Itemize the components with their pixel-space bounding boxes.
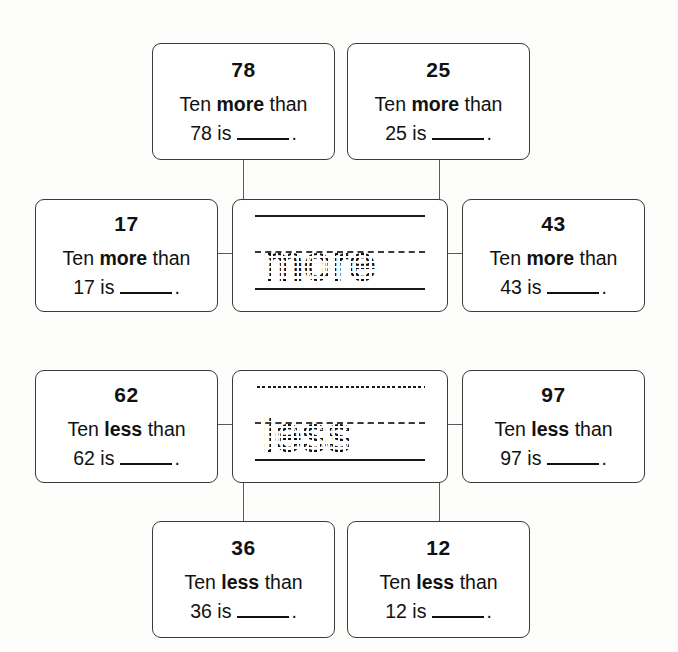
sentence-keyword: more	[216, 93, 264, 115]
problem-card-43[interactable]: 43 Ten more than 43 is .	[462, 199, 645, 312]
tracing-rules-more: more	[255, 200, 425, 311]
sentence-prefix: Ten	[375, 93, 412, 115]
tracing-card-more[interactable]: more	[232, 199, 448, 312]
problem-card-17[interactable]: 17 Ten more than 17 is .	[35, 199, 218, 312]
sentence-suffix: than	[574, 247, 617, 269]
answer-blank[interactable]	[547, 450, 599, 465]
card-number: 78	[231, 59, 255, 80]
sentence-period: .	[291, 122, 296, 144]
card-sentence-line1: Ten less than	[67, 418, 185, 440]
card-sentence-line2: 78 is .	[190, 122, 297, 144]
card-sentence-line1: Ten less than	[379, 571, 497, 593]
card-number: 97	[541, 384, 565, 405]
sentence-keyword: more	[99, 247, 147, 269]
worksheet-page: 78 Ten more than 78 is . 25 Ten more tha…	[0, 0, 678, 652]
sentence-prefix: Ten	[490, 247, 527, 269]
sentence-period: .	[601, 276, 606, 298]
sentence-suffix: than	[459, 93, 502, 115]
connector-78-to-more	[243, 159, 244, 201]
answer-blank[interactable]	[120, 279, 172, 294]
card-sentence-line2: 43 is .	[500, 276, 607, 298]
card-sentence-line2: 12 is .	[385, 600, 492, 622]
card-sentence-line1: Ten more than	[375, 93, 503, 115]
card-sentence-line2: 62 is .	[73, 447, 180, 469]
sentence-keyword: more	[526, 247, 574, 269]
answer-prompt: 62 is	[73, 447, 114, 469]
card-number: 43	[541, 213, 565, 234]
sentence-keyword: less	[416, 571, 454, 593]
sentence-suffix: than	[264, 93, 307, 115]
sentence-period: .	[486, 600, 491, 622]
sentence-suffix: than	[142, 418, 185, 440]
answer-blank[interactable]	[120, 450, 172, 465]
problem-card-12[interactable]: 12 Ten less than 12 is .	[347, 521, 530, 638]
tracing-rules-less: less	[255, 371, 425, 482]
tracing-word-less: less	[263, 411, 352, 459]
card-sentence-line1: Ten less than	[184, 571, 302, 593]
tracing-card-less[interactable]: less	[232, 370, 448, 483]
sentence-suffix: than	[147, 247, 190, 269]
sentence-prefix: Ten	[184, 571, 221, 593]
connector-97-to-less	[446, 424, 463, 425]
sentence-prefix: Ten	[379, 571, 416, 593]
answer-blank[interactable]	[237, 125, 289, 140]
card-number: 25	[426, 59, 450, 80]
card-number: 62	[114, 384, 138, 405]
answer-prompt: 43 is	[500, 276, 541, 298]
card-sentence-line1: Ten more than	[63, 247, 191, 269]
card-sentence-line1: Ten more than	[180, 93, 308, 115]
answer-prompt: 25 is	[385, 122, 426, 144]
answer-blank[interactable]	[547, 279, 599, 294]
sentence-period: .	[486, 122, 491, 144]
answer-blank[interactable]	[432, 603, 484, 618]
answer-prompt: 36 is	[190, 600, 231, 622]
answer-blank[interactable]	[237, 603, 289, 618]
sentence-prefix: Ten	[67, 418, 104, 440]
problem-card-36[interactable]: 36 Ten less than 36 is .	[152, 521, 335, 638]
card-sentence-line2: 25 is .	[385, 122, 492, 144]
connector-43-to-more	[446, 253, 463, 254]
sentence-prefix: Ten	[63, 247, 100, 269]
problem-card-78[interactable]: 78 Ten more than 78 is .	[152, 43, 335, 160]
sentence-period: .	[174, 447, 179, 469]
connector-25-to-more	[439, 159, 440, 201]
answer-prompt: 97 is	[500, 447, 541, 469]
sentence-period: .	[601, 447, 606, 469]
sentence-keyword: more	[411, 93, 459, 115]
rule-top-line	[255, 215, 425, 217]
card-sentence-line2: 97 is .	[500, 447, 607, 469]
sentence-keyword: less	[104, 418, 142, 440]
problem-card-97[interactable]: 97 Ten less than 97 is .	[462, 370, 645, 483]
card-number: 17	[114, 213, 138, 234]
card-sentence-line2: 36 is .	[190, 600, 297, 622]
answer-prompt: 78 is	[190, 122, 231, 144]
problem-card-62[interactable]: 62 Ten less than 62 is .	[35, 370, 218, 483]
sentence-keyword: less	[531, 418, 569, 440]
card-number: 36	[231, 537, 255, 558]
connector-less-to-36	[243, 479, 244, 521]
connector-less-to-12	[439, 479, 440, 521]
card-sentence-line2: 17 is .	[73, 276, 180, 298]
problem-card-25[interactable]: 25 Ten more than 25 is .	[347, 43, 530, 160]
card-sentence-line1: Ten more than	[490, 247, 618, 269]
sentence-period: .	[291, 600, 296, 622]
answer-prompt: 17 is	[73, 276, 114, 298]
sentence-suffix: than	[259, 571, 302, 593]
sentence-suffix: than	[569, 418, 612, 440]
answer-prompt: 12 is	[385, 600, 426, 622]
sentence-prefix: Ten	[180, 93, 217, 115]
answer-blank[interactable]	[432, 125, 484, 140]
sentence-prefix: Ten	[494, 418, 531, 440]
sentence-suffix: than	[454, 571, 497, 593]
tracing-word-more: more	[263, 240, 376, 288]
sentence-period: .	[174, 276, 179, 298]
card-sentence-line1: Ten less than	[494, 418, 612, 440]
sentence-keyword: less	[221, 571, 259, 593]
card-number: 12	[426, 537, 450, 558]
